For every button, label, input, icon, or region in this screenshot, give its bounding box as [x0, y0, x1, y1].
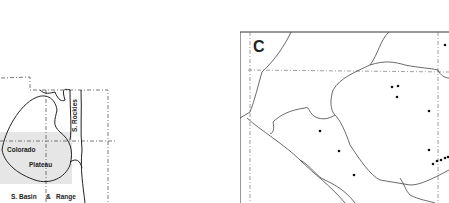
sample-point	[436, 160, 439, 163]
sample-point	[428, 149, 431, 152]
sample-point	[338, 150, 341, 153]
parallel-line	[248, 70, 449, 72]
map-frame	[240, 32, 449, 203]
boundary-5	[400, 178, 435, 203]
sample-point	[428, 110, 431, 113]
boundary-coast	[247, 118, 345, 203]
left-map-panel: Colorado Plateau S. Rockies S. Basin & R…	[0, 0, 120, 203]
left-map-svg: Colorado Plateau S. Rockies S. Basin & R…	[0, 0, 120, 203]
right-map-svg: C	[240, 0, 449, 203]
label-s-basin: S. Basin	[11, 193, 37, 200]
rockies-east-boundary	[81, 90, 85, 203]
boundary-4	[300, 160, 355, 203]
sample-point	[444, 157, 447, 160]
basin-outline	[331, 32, 449, 185]
basin-top	[370, 62, 449, 78]
boundary-2	[273, 107, 335, 122]
sample-point	[396, 96, 399, 99]
sample-point	[444, 44, 447, 47]
sample-point	[440, 159, 443, 162]
sample-point	[353, 174, 356, 177]
label-plateau: Plateau	[29, 161, 52, 168]
boundary-3	[270, 122, 274, 133]
right-map-panel: C	[240, 0, 449, 203]
sample-point	[432, 163, 435, 166]
sample-points	[319, 44, 449, 177]
label-range: Range	[56, 193, 76, 201]
label-s-rockies: S. Rockies	[71, 99, 78, 132]
sample-point	[391, 86, 394, 89]
panel-label: C	[253, 38, 265, 55]
label-ampersand: &	[46, 193, 51, 200]
label-colorado: Colorado	[7, 146, 36, 153]
boundary-1	[240, 32, 291, 118]
sample-point	[397, 85, 400, 88]
sample-point	[319, 130, 322, 133]
